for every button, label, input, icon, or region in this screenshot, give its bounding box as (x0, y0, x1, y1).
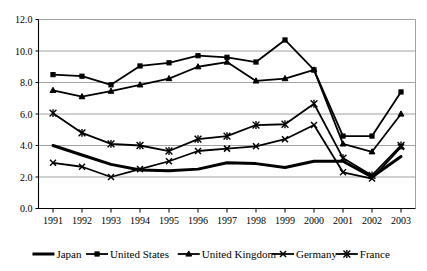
y-tick-label: 0.0 (20, 203, 33, 214)
series-france (50, 100, 405, 179)
x-tick-label: 1993 (101, 215, 121, 226)
x-tick-label: 2003 (391, 215, 411, 226)
legend-item-france[interactable]: France (336, 248, 390, 260)
marker-triangle (340, 141, 346, 146)
marker-square (370, 134, 374, 138)
marker-asterisk (340, 154, 347, 162)
marker-square (283, 38, 287, 42)
x-tick-label: 1992 (72, 215, 92, 226)
legend-item-united-states[interactable]: United States (86, 248, 169, 260)
marker-asterisk (50, 109, 57, 117)
marker-square (341, 134, 345, 138)
legend-item-united-kingdom[interactable]: United Kingdom (178, 248, 277, 260)
x-tick-label: 2000 (304, 215, 324, 226)
marker-triangle (398, 111, 404, 116)
y-tick-label: 4.0 (20, 140, 33, 151)
y-tick-label: 8.0 (20, 77, 33, 88)
x-tick-label: 1995 (159, 215, 179, 226)
marker-x (311, 122, 317, 128)
y-tick-label: 12.0 (15, 14, 33, 25)
series-line (53, 40, 401, 136)
marker-square (80, 74, 84, 78)
marker-triangle (50, 87, 56, 92)
marker-square (51, 73, 55, 77)
series-germany (50, 122, 404, 182)
marker-square (196, 54, 200, 58)
legend-label: Japan (56, 248, 82, 260)
chart-legend: JapanUnited StatesUnited KingdomGermanyF… (32, 248, 389, 260)
chart-canvas: 0.02.04.06.08.010.012.0 1991199219931994… (0, 0, 427, 271)
y-tick-label: 6.0 (20, 109, 33, 120)
x-axis-tick-labels: 1991199219931994199519961997199819992000… (43, 209, 411, 226)
marker-square (399, 90, 403, 94)
marker-square (95, 252, 99, 256)
legend-label: United States (110, 248, 169, 260)
marker-asterisk (311, 100, 318, 108)
y-tick-label: 2.0 (20, 172, 33, 183)
x-tick-label: 1997 (217, 215, 237, 226)
marker-square (167, 61, 171, 65)
x-tick-label: 1998 (246, 215, 266, 226)
line-chart: 0.02.04.06.08.010.012.0 1991199219931994… (0, 0, 427, 271)
x-tick-label: 1999 (275, 215, 295, 226)
x-tick-label: 2001 (333, 215, 353, 226)
legend-label: Germany (296, 248, 337, 260)
legend-item-japan[interactable]: Japan (32, 248, 82, 260)
marker-square (109, 83, 113, 87)
legend-item-germany[interactable]: Germany (272, 248, 337, 260)
x-tick-label: 2002 (362, 215, 382, 226)
x-tick-label: 1991 (43, 215, 63, 226)
grid-lines (39, 20, 416, 209)
data-series-group (50, 38, 405, 182)
legend-label: France (360, 248, 390, 260)
x-tick-label: 1994 (130, 215, 150, 226)
series-united-states (51, 38, 403, 138)
marker-square (138, 64, 142, 68)
y-axis-tick-labels: 0.02.04.06.08.010.012.0 (15, 14, 39, 214)
marker-square (254, 60, 258, 64)
x-tick-label: 1996 (188, 215, 208, 226)
y-tick-label: 10.0 (15, 46, 33, 57)
legend-label: United Kingdom (202, 248, 277, 260)
